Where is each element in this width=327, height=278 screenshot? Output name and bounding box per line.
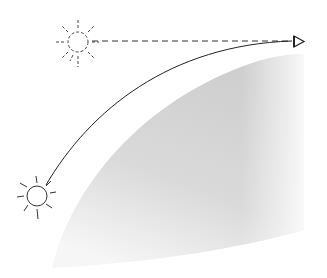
earth-shape xyxy=(52,55,304,268)
observer-eye-icon xyxy=(294,36,304,47)
apparent-sun-icon xyxy=(56,18,99,67)
refraction-diagram xyxy=(0,0,327,278)
real-sun-icon xyxy=(17,176,56,219)
